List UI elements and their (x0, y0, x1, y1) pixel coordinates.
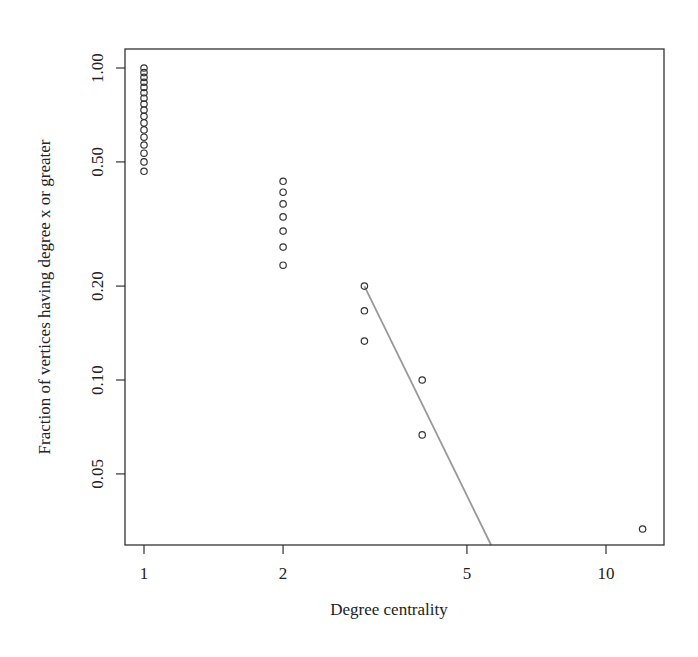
data-point (141, 168, 147, 174)
data-point (141, 120, 147, 126)
x-tick-label: 5 (463, 564, 472, 583)
data-point (280, 244, 286, 250)
x-tick-label: 1 (140, 564, 149, 583)
y-tick-label: 0.50 (88, 147, 107, 177)
data-point (141, 142, 147, 148)
data-point (141, 150, 147, 156)
data-point (419, 377, 425, 383)
data-point (141, 127, 147, 133)
data-point (141, 134, 147, 140)
y-tick-label: 0.20 (88, 271, 107, 301)
x-axis: 12510 (140, 545, 615, 583)
fit-line (364, 286, 491, 545)
x-tick-label: 2 (279, 564, 288, 583)
data-point (361, 338, 367, 344)
data-point (419, 432, 425, 438)
data-point (361, 283, 367, 289)
data-points (141, 65, 646, 532)
x-tick-label: 10 (598, 564, 615, 583)
y-axis-title: Fraction of vertices having degree x or … (35, 139, 54, 454)
y-axis: 0.050.100.200.501.00 (88, 53, 125, 489)
data-point (280, 262, 286, 268)
power-law-fit-line (364, 286, 491, 545)
plot-frame (125, 49, 664, 545)
data-point (280, 214, 286, 220)
data-point (141, 113, 147, 119)
data-point (280, 178, 286, 184)
data-point (280, 201, 286, 207)
data-point (361, 308, 367, 314)
y-tick-label: 1.00 (88, 53, 107, 83)
data-point (280, 189, 286, 195)
y-tick-label: 0.10 (88, 365, 107, 395)
y-tick-label: 0.05 (88, 459, 107, 489)
x-axis-title: Degree centrality (330, 600, 448, 619)
data-point (639, 526, 645, 532)
data-point (280, 228, 286, 234)
ccdf-plot: 12510 0.050.100.200.501.00 Degree centra… (0, 0, 698, 657)
data-point (141, 159, 147, 165)
